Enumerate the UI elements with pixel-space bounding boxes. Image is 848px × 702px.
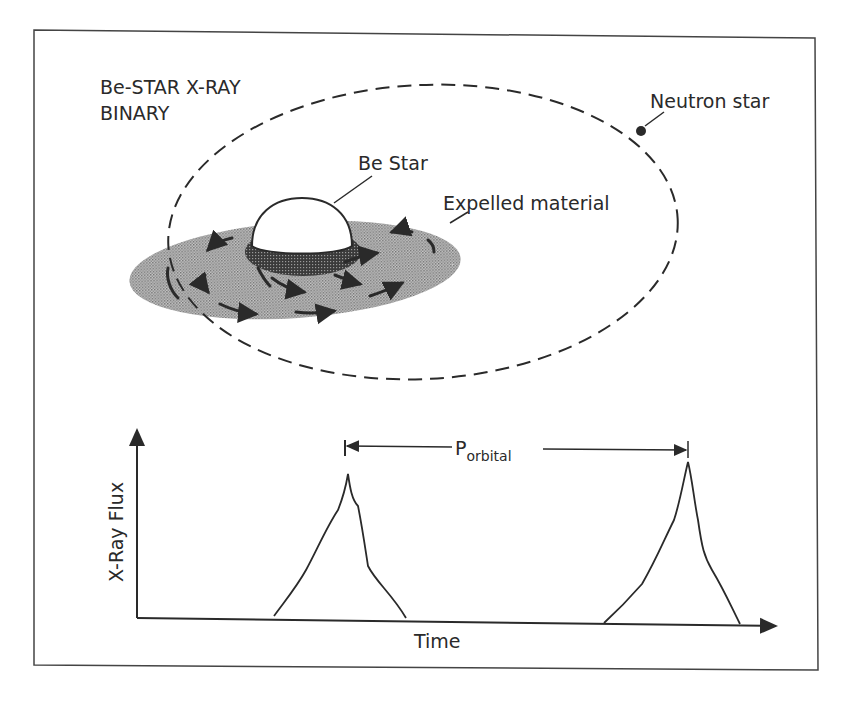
x-axis xyxy=(137,618,776,626)
be-star-leader xyxy=(334,176,372,203)
orbital-period-arrow-left xyxy=(347,446,452,447)
orbital-period-label: Porbital xyxy=(455,437,512,464)
xray-light-curve-chart: X-Ray Flux Time Porbital xyxy=(105,430,776,652)
figure-title-line1: Be-STAR X-RAY xyxy=(100,76,241,98)
be-star-xray-binary-figure: Be-STAR X-RAY BINARY Neutron star Be Sta… xyxy=(0,0,848,702)
outburst-peak-1 xyxy=(274,474,406,618)
figure-title-line2: BINARY xyxy=(100,102,170,124)
neutron-star-leader xyxy=(645,112,664,126)
figure-frame-border xyxy=(34,30,818,670)
x-axis-label: Time xyxy=(413,630,461,652)
neutron-star-dot xyxy=(636,126,646,136)
y-axis-label: X-Ray Flux xyxy=(105,482,127,582)
outburst-peak-2 xyxy=(604,462,740,624)
orbital-period-label-main: P xyxy=(455,437,466,459)
be-star-label: Be Star xyxy=(358,152,428,174)
orbital-period-arrow-right xyxy=(543,449,686,450)
expelled-material-label: Expelled material xyxy=(443,192,610,214)
orbital-period-label-sub: orbital xyxy=(466,448,511,464)
be-star-sphere xyxy=(252,198,352,254)
neutron-star-label: Neutron star xyxy=(650,90,769,112)
